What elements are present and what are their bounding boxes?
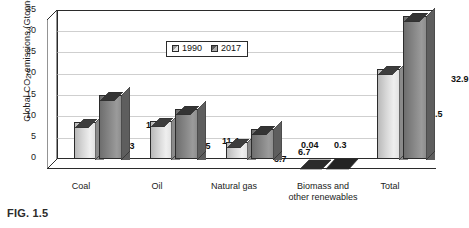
x-axis-label-total: Total	[355, 181, 425, 192]
bar-oil-2017[interactable]	[175, 10, 198, 159]
y-tick-35: 35	[16, 5, 36, 14]
chart-left-wall	[47, 10, 59, 169]
x-axis-label-biomass-line2: other renewables	[275, 192, 371, 203]
y-tick-30: 30	[16, 26, 36, 35]
plot-area: 8.3 14.5 8.5	[47, 10, 436, 169]
chart-baseline	[47, 168, 436, 169]
bar-top-face	[378, 61, 399, 70]
bar-top-face	[227, 134, 247, 143]
legend-item-1990[interactable]: 1990	[172, 44, 202, 53]
legend-item-2017[interactable]: 2017	[211, 44, 241, 53]
bar-oil-1990[interactable]	[150, 10, 172, 159]
y-tick-25: 25	[16, 47, 36, 56]
bar-side-face	[197, 110, 206, 160]
bar-biomass-2017[interactable]	[326, 155, 359, 170]
value-label-total-2017: 32.9	[451, 75, 469, 84]
value-label-biomass-2017: 0.3	[334, 141, 347, 150]
x-axis-label-oil: Oil	[122, 181, 192, 192]
bar-top-face	[75, 114, 95, 123]
bar-side-face	[426, 17, 435, 160]
bar-total-1990[interactable]	[377, 10, 400, 159]
value-label-biomass-1990: 0.04	[301, 141, 319, 150]
y-tick-0: 0	[16, 153, 36, 162]
y-tick-20: 20	[16, 68, 36, 77]
bar-top-face	[252, 121, 273, 130]
bar-top-face	[151, 113, 171, 122]
bar-natural-gas-2017[interactable]	[251, 10, 274, 159]
chart-legend: 1990 2017	[166, 41, 248, 57]
legend-swatch-1990-icon	[172, 45, 179, 52]
legend-swatch-2017-icon	[211, 45, 218, 52]
x-axis-label-natural-gas: Natural gas	[196, 181, 272, 192]
legend-label-1990: 1990	[182, 44, 202, 53]
bar-side-face	[121, 96, 130, 160]
bar-natural-gas-1990[interactable]	[226, 10, 248, 159]
y-axis-ticks: 35 30 25 20 15 10 5 0	[16, 0, 36, 169]
y-tick-10: 10	[16, 111, 36, 120]
y-tick-15: 15	[16, 90, 36, 99]
y-tick-5: 5	[16, 132, 36, 141]
bar-coal-1990[interactable]	[74, 10, 96, 159]
bar-total-2017[interactable]	[403, 10, 427, 159]
bar-side-face	[273, 130, 282, 160]
figure-caption: FIG. 1.5	[7, 207, 48, 219]
x-axis-label-coal: Coal	[46, 181, 116, 192]
bar-top-face	[404, 8, 426, 17]
bar-top-face	[100, 87, 121, 96]
bar-top-face	[176, 101, 197, 110]
legend-label-2017: 2017	[221, 44, 241, 53]
bar-coal-2017[interactable]	[99, 10, 122, 159]
